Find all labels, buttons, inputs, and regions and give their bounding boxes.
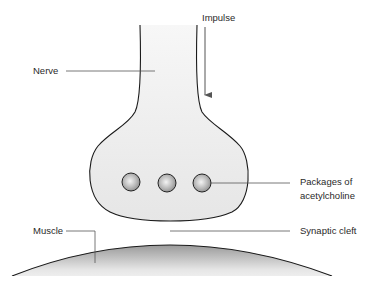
neuromuscular-junction-diagram <box>0 0 373 290</box>
packages-label-line1: Packages of <box>300 175 352 188</box>
synaptic-cleft-label: Synaptic cleft <box>300 224 357 237</box>
acetylcholine-vesicle <box>122 173 140 191</box>
acetylcholine-vesicle <box>193 174 211 192</box>
impulse-label: Impulse <box>202 11 235 24</box>
nerve-label: Nerve <box>33 64 58 77</box>
packages-label-line2: acetylcholine <box>300 189 355 202</box>
muscle-label: Muscle <box>33 224 63 237</box>
acetylcholine-vesicle <box>158 174 176 192</box>
